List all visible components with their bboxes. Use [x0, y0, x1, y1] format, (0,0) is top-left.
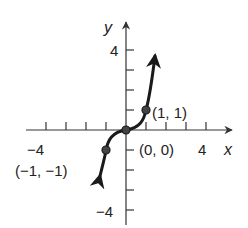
cubic-curve: [100, 56, 155, 176]
x-axis-label: x: [223, 141, 233, 158]
point-origin: [122, 126, 130, 134]
x-tick-label-4: 4: [198, 141, 206, 158]
point-1-1: [142, 106, 150, 114]
cubic-function-graph: y x 4 −4 −4 4 (0, 0) (1, 1) (−1, −1): [0, 0, 248, 228]
point-label-origin: (0, 0): [139, 141, 174, 158]
point-label-neg1-neg1: (−1, −1): [15, 162, 68, 179]
x-tick-label-neg4: −4: [27, 141, 44, 158]
point-neg1-neg1: [102, 146, 110, 154]
y-axis-label: y: [103, 19, 113, 36]
y-tick-label-neg4: −4: [96, 203, 113, 220]
point-label-1-1: (1, 1): [152, 104, 187, 121]
y-tick-label-4: 4: [110, 42, 118, 59]
